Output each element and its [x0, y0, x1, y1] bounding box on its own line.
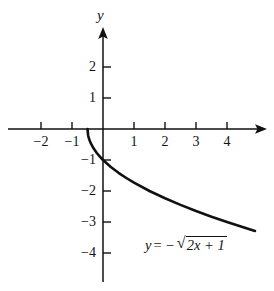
- radical-sign-icon: √: [177, 235, 186, 251]
- x-tick-label-4: 4: [220, 135, 234, 149]
- y-tick-label-2: 2: [82, 60, 96, 74]
- equation-equals: =: [151, 237, 163, 253]
- y-tick-label-neg2: −2: [74, 184, 96, 198]
- x-axis-ticks: [41, 122, 227, 129]
- y-axis-label: y: [97, 8, 104, 23]
- radical-expression: √2x + 1: [177, 236, 227, 253]
- y-tick-label-neg4: −4: [74, 246, 96, 260]
- y-tick-label-1: 1: [82, 91, 96, 105]
- equation-minus-sign: −: [164, 237, 176, 253]
- x-tick-label-3: 3: [189, 135, 203, 149]
- graph-figure: y −2 −1 1 2 3 4 2 1 −1 −2 −3 −4 y=−√2x +…: [0, 0, 274, 291]
- y-tick-label-neg3: −3: [74, 215, 96, 229]
- y-tick-label-neg1: −1: [74, 153, 96, 167]
- x-tick-label-1: 1: [127, 135, 141, 149]
- x-tick-label-2: 2: [158, 135, 172, 149]
- curve-equation-label: y=−√2x + 1: [145, 236, 227, 253]
- x-tick-label-neg2: −2: [31, 135, 51, 149]
- radicand-expression: 2x + 1: [186, 236, 227, 253]
- x-axis-group: [8, 124, 267, 134]
- x-tick-label-neg1: −1: [62, 135, 82, 149]
